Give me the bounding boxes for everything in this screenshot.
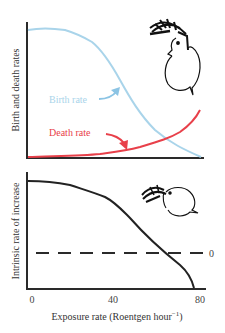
bottom-y-axis-label: Intrinsic rate of increase (10, 182, 21, 279)
zero-line-label: 0 (209, 248, 214, 259)
x-axis-label: Exposure rate (Roentgen hour−1) (51, 310, 182, 323)
x-tick-0: 0 (30, 294, 35, 305)
daphnia-small-illustration-icon (142, 185, 198, 216)
bottom-panel: Intrinsic rate of increase 0 0 40 80 Exp… (10, 172, 214, 323)
death-rate-arrow-icon (106, 134, 128, 150)
figure: Birth and death rates Birth rate Death r… (0, 0, 225, 333)
x-tick-80: 80 (195, 294, 205, 305)
death-rate-label: Death rate (49, 127, 91, 138)
birth-rate-label: Birth rate (49, 94, 88, 105)
top-panel: Birth and death rates Birth rate Death r… (10, 19, 204, 159)
daphnia-illustration-icon (150, 19, 200, 95)
top-y-axis-label: Birth and death rates (10, 48, 21, 131)
birth-rate-arrow-icon (99, 87, 120, 99)
intrinsic-rate-curve (28, 181, 194, 288)
x-tick-40: 40 (108, 294, 118, 305)
